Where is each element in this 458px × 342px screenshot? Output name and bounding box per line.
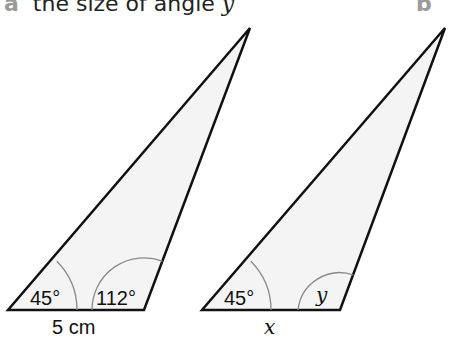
right-triangle: 45° y x: [202, 28, 445, 339]
angle-label-y: y: [315, 283, 328, 307]
side-label-x: x: [264, 315, 275, 339]
side-label-5cm: 5 cm: [52, 316, 95, 338]
angle-label-45-right: 45°: [224, 287, 254, 309]
triangle-diagrams: 45° 112° 5 cm 45° y x: [0, 0, 458, 342]
left-triangle: 45° 112° 5 cm: [8, 28, 250, 338]
angle-label-112: 112°: [96, 287, 136, 309]
angle-label-45-left: 45°: [30, 287, 60, 309]
